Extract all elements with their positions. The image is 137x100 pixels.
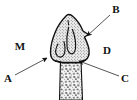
leader-line-b [87, 15, 110, 36]
cusp-ridge-tick [68, 21, 69, 26]
tooth-crown [51, 15, 90, 63]
label-m: M [15, 40, 26, 52]
tooth-diagram-svg: M A B C D [0, 0, 137, 100]
label-c: C [121, 72, 129, 84]
figure-container: M A B C D [0, 0, 137, 100]
label-d: D [103, 44, 111, 56]
tooth-root [60, 60, 83, 100]
label-b: B [112, 3, 120, 15]
label-a: A [4, 72, 12, 84]
leader-line-c [79, 61, 119, 76]
leader-line-a [15, 58, 47, 75]
root-outline [60, 60, 83, 100]
